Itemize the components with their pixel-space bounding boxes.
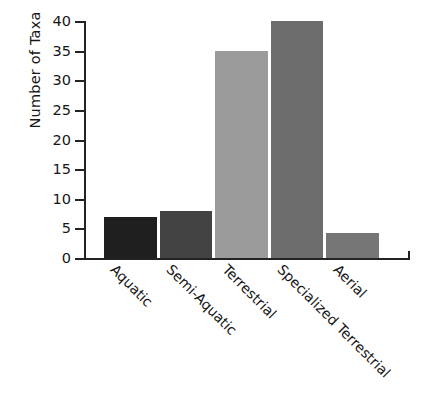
bar-terrestrial — [215, 51, 268, 258]
x-label-terrestrial: Terrestrial — [220, 262, 279, 321]
x-axis-line — [84, 258, 410, 260]
bar-chart-figure: Number of Taxa 0510152025303540 AquaticS… — [0, 0, 436, 395]
y-tick-mark — [75, 51, 84, 53]
y-tick-label: 5 — [62, 221, 71, 236]
x-axis-labels: AquaticSemi-AquaticTerrestrialSpecialize… — [84, 262, 436, 392]
bar-semi-aquatic — [160, 211, 213, 258]
y-tick-label: 20 — [53, 132, 71, 147]
y-axis-title: Number of Taxa — [18, 0, 52, 210]
y-tick-mark — [75, 110, 84, 112]
y-tick-mark — [75, 199, 84, 201]
y-tick-mark — [75, 258, 84, 260]
bar-aerial — [326, 233, 379, 258]
y-tick-label: 15 — [53, 162, 71, 177]
y-tick-label: 30 — [53, 73, 71, 88]
bar-specialized-terrestrial — [271, 21, 324, 258]
y-tick-mark — [75, 169, 84, 171]
y-tick-label: 10 — [53, 192, 71, 207]
y-tick-mark — [75, 21, 84, 23]
y-tick-label: 40 — [53, 14, 71, 29]
x-label-aerial: Aerial — [331, 262, 369, 300]
x-label-specialized-terrestrial: Specialized Terrestrial — [275, 262, 393, 380]
x-label-aquatic: Aquatic — [108, 262, 155, 309]
bar-group — [86, 21, 410, 258]
bar-aquatic — [104, 217, 157, 258]
y-tick-mark — [75, 228, 84, 230]
y-tick-mark — [75, 80, 84, 82]
y-tick-label: 0 — [62, 251, 71, 266]
plot-area: 0510152025303540 — [84, 21, 410, 258]
y-tick-label: 25 — [53, 103, 71, 118]
y-tick-label: 35 — [53, 43, 71, 58]
y-tick-mark — [75, 140, 84, 142]
